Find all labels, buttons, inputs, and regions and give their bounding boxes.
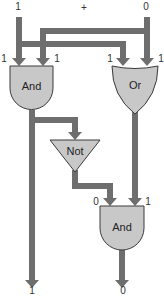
or-top-in2-label: 1	[158, 53, 164, 64]
arrow-and-right-icon	[36, 58, 50, 66]
wire-not-to-and-left	[75, 170, 110, 198]
input-a-label: 1	[15, 1, 21, 12]
or-gate-label: Or	[129, 79, 142, 91]
gate-and-top: And	[10, 66, 53, 110]
and-top-in2-label: 1	[54, 53, 60, 64]
arrow-or-right-icon	[140, 58, 154, 66]
and-top-in1-label: 1	[1, 53, 7, 64]
and-bottom-in2-label: 1	[145, 196, 151, 207]
output-sum-label: 0	[120, 285, 126, 296]
logic-circuit-diagram: And Or Not And 1 + 0 1 1 1 1 0 1 1 0	[0, 0, 164, 298]
gate-not: Not	[50, 140, 100, 172]
and-gate-bottom-label: And	[112, 221, 132, 233]
and-gate-label: And	[22, 80, 42, 92]
gate-and-bottom: And	[100, 206, 144, 250]
not-gate-label: Not	[66, 145, 83, 157]
arrow-and-left-icon	[12, 58, 26, 66]
arrow-and2-right-icon	[128, 198, 142, 206]
or-top-in1-label: 1	[107, 53, 113, 64]
arrow-not-icon	[68, 132, 82, 140]
and-bottom-in1-label: 0	[93, 196, 99, 207]
input-b-label: 0	[143, 1, 149, 12]
gate-or-top: Or	[112, 66, 158, 114]
plus-symbol: +	[81, 2, 87, 13]
arrow-and2-left-icon	[103, 198, 117, 206]
output-carry-label: 1	[29, 285, 35, 296]
wire-and-to-not	[32, 120, 75, 132]
arrow-or-left-icon	[116, 58, 130, 66]
